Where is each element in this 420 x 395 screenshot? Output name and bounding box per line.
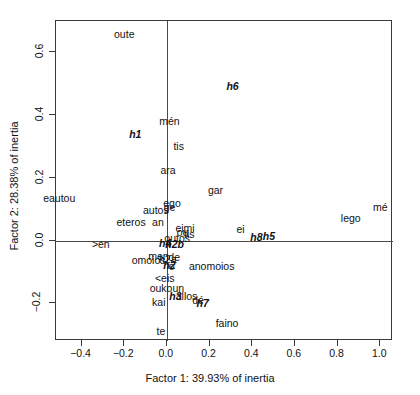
data-point-label: h1 xyxy=(129,129,141,140)
data-point-label: h2 xyxy=(163,260,175,271)
data-point-label: h3 xyxy=(169,291,181,302)
data-point-label: tis xyxy=(173,141,184,152)
x-tick-label: 0.8 xyxy=(329,347,344,359)
data-point-label: lego xyxy=(341,213,361,224)
x-tick-label: 0.6 xyxy=(287,347,302,359)
y-tick-label: −0.2 xyxy=(25,296,46,308)
x-tick-mark xyxy=(209,340,210,346)
y-tick-label: 0.0 xyxy=(31,234,46,246)
data-point-label: autos xyxy=(143,205,169,216)
data-point-label: h7 xyxy=(197,298,209,309)
data-point-label: gar xyxy=(208,185,223,196)
plot-area: outeméntisaragareautouegogeautosmélegoet… xyxy=(55,20,392,340)
data-point-label: >en xyxy=(92,238,110,249)
x-tick-mark xyxy=(379,340,380,346)
x-tick-label: 0.2 xyxy=(201,347,216,359)
data-point-label: mé xyxy=(373,201,388,212)
data-point-label: eautou xyxy=(43,192,75,203)
y-tick-mark xyxy=(49,51,55,52)
data-point-label: eteros xyxy=(116,217,145,228)
data-point-label: anomoios xyxy=(189,261,235,272)
x-tick-mark xyxy=(81,340,82,346)
y-tick-label: 0.6 xyxy=(31,45,46,57)
data-point-label: h6 xyxy=(226,81,238,92)
data-point-label: h2b xyxy=(165,239,184,250)
plot-canvas: outeméntisaragareautouegogeautosmélegoet… xyxy=(56,21,391,339)
data-point-label: ara xyxy=(160,165,175,176)
y-tick-label: 0.2 xyxy=(31,171,46,183)
x-tick-mark xyxy=(251,340,252,346)
x-tick-label: −0.2 xyxy=(113,347,134,359)
y-tick-mark xyxy=(49,302,55,303)
data-point-label: an xyxy=(152,217,164,228)
x-tick-mark xyxy=(294,340,295,346)
data-point-label: oute xyxy=(114,28,134,39)
data-point-label: kai xyxy=(152,297,165,308)
data-point-label: faino xyxy=(216,318,239,329)
y-tick-label: 0.4 xyxy=(31,108,46,120)
data-point-label: mén xyxy=(159,116,179,127)
data-point-label: omoios xyxy=(132,255,166,266)
data-point-label: te xyxy=(157,326,166,337)
x-tick-mark xyxy=(337,340,338,346)
x-tick-label: 0.0 xyxy=(159,347,174,359)
y-tick-mark xyxy=(49,240,55,241)
x-tick-mark xyxy=(123,340,124,346)
y-tick-mark xyxy=(49,114,55,115)
x-tick-label: 0.4 xyxy=(244,347,259,359)
x-tick-mark xyxy=(166,340,167,346)
data-point-label: h8 xyxy=(250,232,262,243)
data-point-label: ei xyxy=(236,224,244,235)
data-point-label: h5 xyxy=(263,230,275,241)
x-tick-label: 1.0 xyxy=(372,347,387,359)
y-tick-mark xyxy=(49,177,55,178)
y-axis-title: Factor 2: 28.38% of inertia xyxy=(8,86,20,286)
x-tick-label: −0.4 xyxy=(70,347,91,359)
correspondence-analysis-plot: outeméntisaragareautouegogeautosmélegoet… xyxy=(0,0,420,395)
x-axis-title: Factor 1: 39.93% of inertia xyxy=(0,372,420,384)
